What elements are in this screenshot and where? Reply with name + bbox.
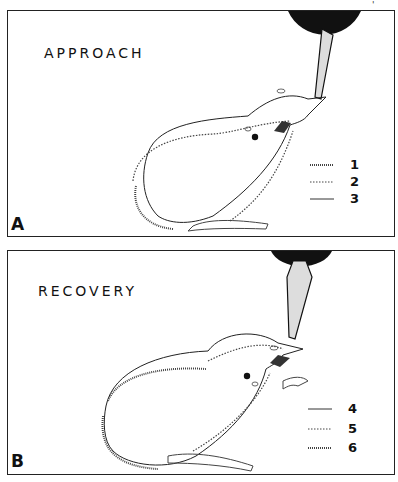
legend-number: 4 xyxy=(348,401,357,416)
legend-number: 2 xyxy=(350,174,359,189)
legend-number: 6 xyxy=(348,440,357,455)
dotted-line-icon xyxy=(308,426,336,432)
legend-item-4: 4 xyxy=(308,401,357,416)
legend-number: 1 xyxy=(350,157,359,172)
panel-label: A xyxy=(11,214,24,234)
legend-number: 3 xyxy=(350,191,359,206)
solid-line-icon xyxy=(310,196,338,202)
dotted-line-icon xyxy=(310,179,338,185)
hatched-line-icon xyxy=(310,162,338,168)
legend-item-5: 5 xyxy=(308,421,357,436)
eye-icon xyxy=(244,373,250,379)
legend-item-2: 2 xyxy=(310,174,359,189)
legend-item-3: 3 xyxy=(310,191,359,206)
panel-title: RECOVERY xyxy=(38,283,137,299)
panel-recovery: RECOVERY B 4 5 6 xyxy=(7,250,395,475)
legend-item-6: 6 xyxy=(308,440,357,455)
solid-line-icon xyxy=(308,406,336,412)
hatched-line-icon xyxy=(308,445,336,451)
panel-title: APPROACH xyxy=(44,45,145,61)
corner-mark: ' xyxy=(372,0,374,10)
eye-icon xyxy=(252,134,258,140)
panel-approach: APPROACH A 1 2 3 xyxy=(7,10,395,237)
legend-number: 5 xyxy=(348,421,357,436)
panel-label: B xyxy=(11,451,24,471)
legend-item-1: 1 xyxy=(310,157,359,172)
